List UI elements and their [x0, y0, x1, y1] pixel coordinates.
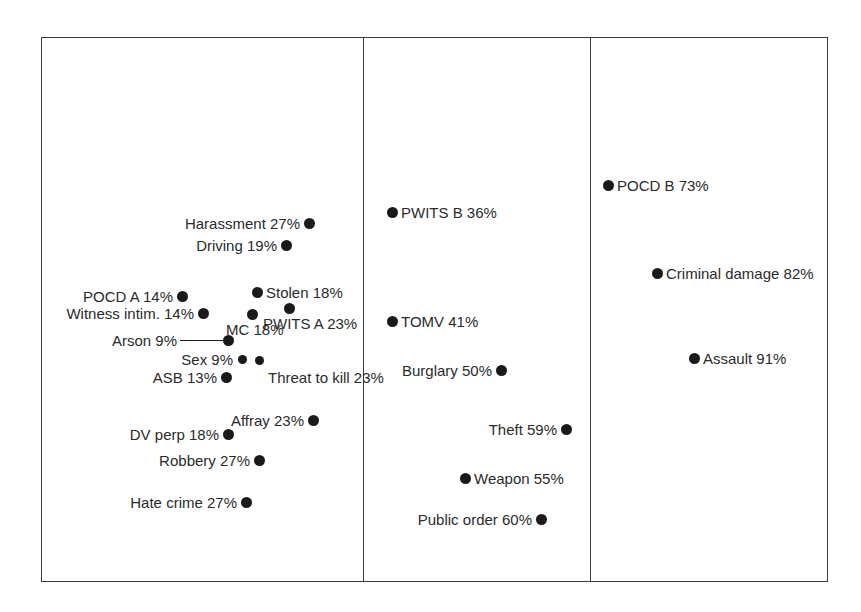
- data-point-label: Burglary 50%: [402, 363, 492, 378]
- data-point-label: ASB 13%: [153, 370, 217, 385]
- data-point-label: Witness intim. 14%: [66, 306, 194, 321]
- panel-divider-2: [590, 37, 591, 582]
- leader-line: [180, 340, 224, 341]
- data-point-label: Robbery 27%: [159, 453, 250, 468]
- data-point-marker: [284, 303, 295, 314]
- data-point-label: Hate crime 27%: [130, 495, 237, 510]
- data-point-label: Sex 9%: [181, 352, 233, 367]
- data-point-label: Threat to kill 23%: [268, 370, 384, 385]
- data-point-label: Criminal damage 82%: [666, 266, 814, 281]
- data-point-marker: [252, 287, 263, 298]
- data-point-marker: [387, 316, 398, 327]
- data-point-label: Assault 91%: [703, 351, 786, 366]
- data-point-marker: [223, 335, 234, 346]
- data-point-marker: [254, 455, 265, 466]
- data-point-label: PWITS B 36%: [401, 205, 497, 220]
- data-point-label: POCD A 14%: [83, 289, 173, 304]
- data-point-marker: [460, 473, 471, 484]
- data-point-marker: [308, 415, 319, 426]
- data-point-marker: [221, 372, 232, 383]
- data-point-marker: [241, 497, 252, 508]
- data-point-marker: [198, 308, 209, 319]
- data-point-marker: [255, 356, 264, 365]
- data-point-marker: [177, 291, 188, 302]
- data-point-marker: [496, 365, 507, 376]
- scatter-chart: Harassment 27%Driving 19%POCD A 14%Stole…: [0, 0, 861, 612]
- data-point-label: Driving 19%: [196, 238, 277, 253]
- data-point-marker: [536, 514, 547, 525]
- panel-divider-1: [363, 37, 364, 582]
- data-point-label: Public order 60%: [418, 512, 532, 527]
- data-point-marker: [281, 240, 292, 251]
- data-point-label: Harassment 27%: [185, 216, 300, 231]
- data-point-marker: [652, 268, 663, 279]
- data-point-label: Affray 23%: [231, 413, 304, 428]
- data-point-marker: [603, 180, 614, 191]
- data-point-marker: [561, 424, 572, 435]
- data-point-label: Theft 59%: [489, 422, 557, 437]
- data-point-label: TOMV 41%: [401, 314, 478, 329]
- data-point-label: Stolen 18%: [266, 285, 343, 300]
- data-point-label: Weapon 55%: [474, 471, 564, 486]
- data-point-label: POCD B 73%: [617, 178, 709, 193]
- data-point-marker: [247, 309, 258, 320]
- data-point-marker: [223, 429, 234, 440]
- data-point-label: Arson 9%: [112, 333, 177, 348]
- data-point-marker: [387, 207, 398, 218]
- data-point-label: MC 18%: [226, 322, 284, 337]
- data-point-marker: [689, 353, 700, 364]
- data-point-marker: [238, 355, 247, 364]
- data-point-label: DV perp 18%: [130, 427, 219, 442]
- data-point-marker: [304, 218, 315, 229]
